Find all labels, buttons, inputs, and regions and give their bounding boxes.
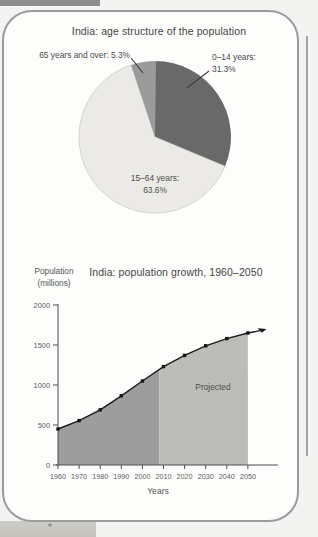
line-chart-title: India: population growth, 1960–2050 bbox=[60, 266, 292, 278]
data-point-marker bbox=[99, 408, 102, 411]
x-tick-label: 1980 bbox=[92, 472, 108, 481]
data-point-marker bbox=[204, 344, 207, 347]
data-point-marker bbox=[183, 354, 186, 357]
pie-label-15-64-value: 63.6% bbox=[105, 184, 205, 196]
data-point-marker bbox=[225, 337, 228, 340]
x-tick-label: 2010 bbox=[156, 472, 172, 481]
pie-label-0-14-text: 0–14 years: bbox=[212, 51, 256, 63]
data-point-marker bbox=[120, 394, 123, 397]
y-axis-label-line2: (millions) bbox=[25, 278, 83, 290]
data-point-marker bbox=[162, 365, 165, 368]
pie-label-15-64-text: 15–64 years: bbox=[105, 172, 205, 184]
photo-fragment bbox=[0, 521, 96, 537]
y-tick-label: 0 bbox=[46, 461, 50, 470]
pie-label-0-14-value: 31.3% bbox=[212, 63, 256, 75]
x-axis-label: Years bbox=[128, 486, 188, 496]
line-chart-svg: 0500100015002000196019701980199020002010… bbox=[0, 290, 318, 500]
pie-chart-svg bbox=[0, 40, 318, 235]
y-tick-label: 500 bbox=[38, 421, 50, 430]
x-tick-label: 2020 bbox=[177, 472, 193, 481]
x-tick-label: 1970 bbox=[71, 472, 87, 481]
data-point-marker bbox=[246, 331, 249, 334]
historical-area bbox=[58, 370, 159, 466]
y-tick-label: 1000 bbox=[34, 381, 50, 390]
pie-label-65plus: 65 years and over: 5.3% bbox=[18, 49, 130, 61]
x-tick-label: 1960 bbox=[50, 472, 66, 481]
pie-chart-title: India: age structure of the population bbox=[20, 25, 298, 37]
data-point-marker bbox=[141, 379, 144, 382]
page-top-strip bbox=[0, 0, 100, 6]
data-point-marker bbox=[77, 419, 80, 422]
x-tick-label: 1990 bbox=[113, 472, 129, 481]
pie-label-65plus-text: 65 years and over: bbox=[39, 50, 108, 60]
y-tick-label: 1500 bbox=[34, 341, 50, 350]
pie-label-15-64: 15–64 years: 63.6% bbox=[105, 172, 205, 196]
pie-label-65plus-value: 5.3% bbox=[111, 50, 130, 60]
pie-label-0-14: 0–14 years: 31.3% bbox=[212, 51, 256, 75]
x-tick-label: 2000 bbox=[134, 472, 150, 481]
x-tick-label: 2040 bbox=[219, 472, 235, 481]
y-tick-label: 2000 bbox=[34, 301, 50, 310]
x-tick-label: 2050 bbox=[240, 472, 256, 481]
projected-annotation: Projected bbox=[184, 382, 242, 392]
data-point-marker bbox=[56, 427, 59, 430]
projected-area bbox=[159, 333, 248, 465]
x-tick-label: 2030 bbox=[198, 472, 214, 481]
scanned-figure-page: India: age structure of the population 6… bbox=[0, 0, 318, 537]
